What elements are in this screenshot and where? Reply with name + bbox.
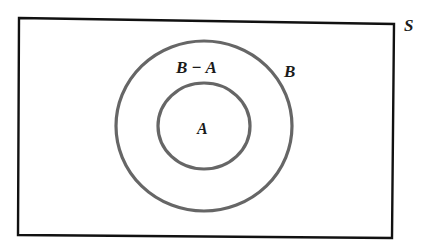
difference-region-label: B − A (175, 58, 217, 77)
venn-diagram: S B B − A A (0, 0, 437, 249)
universe-label-s: S (404, 16, 413, 35)
set-b-label: B (283, 62, 295, 81)
set-a-label: A (196, 120, 208, 137)
